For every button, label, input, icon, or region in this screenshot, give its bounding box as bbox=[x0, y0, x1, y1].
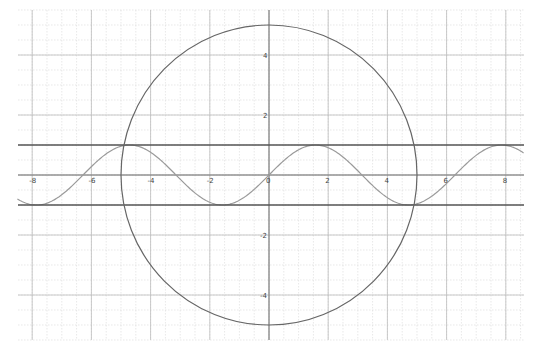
x-tick-label: -2 bbox=[207, 177, 214, 185]
axes bbox=[18, 10, 524, 340]
x-tick-label: 8 bbox=[503, 177, 507, 185]
x-tick-label: -4 bbox=[148, 177, 156, 185]
x-tick-label: -6 bbox=[88, 177, 96, 185]
x-tick-label: -8 bbox=[29, 177, 36, 185]
graph-canvas[interactable]: -8-6-4-202468-4-224 bbox=[0, 0, 534, 353]
x-tick-label: 4 bbox=[384, 177, 389, 185]
y-tick-label: -4 bbox=[260, 292, 268, 300]
x-tick-label: 2 bbox=[325, 177, 329, 185]
y-tick-label: -2 bbox=[260, 232, 267, 240]
y-tick-label: 4 bbox=[263, 52, 268, 60]
y-tick-label: 2 bbox=[263, 112, 267, 120]
